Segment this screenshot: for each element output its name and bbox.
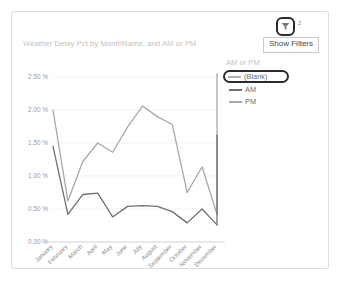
x-tick-label: March bbox=[66, 242, 84, 260]
series-line-am bbox=[53, 146, 217, 225]
filter-badge: 2 bbox=[298, 20, 301, 26]
y-axis-labels: 0.00 %0.50 %1.00 %1.50 %2.00 %2.50 % bbox=[28, 73, 48, 245]
page-title: Weather Delay Pct by MonthName, and AM o… bbox=[23, 39, 197, 48]
filter-button[interactable] bbox=[276, 17, 295, 36]
x-tick-label: April bbox=[85, 243, 99, 257]
show-filters-tooltip[interactable]: Show Filters bbox=[263, 37, 319, 53]
filter-toolbar: 2 Show Filters bbox=[223, 15, 323, 53]
chart-card: 2 Show Filters Weather Delay Pct by Mont… bbox=[11, 11, 329, 269]
x-axis-labels: JanuaryFebruaryMarchAprilMayJuneJulyAugu… bbox=[33, 242, 218, 269]
series-lines bbox=[53, 74, 217, 225]
plot-area: 0.00 %0.50 %1.00 %1.50 %2.00 %2.50 % Jan… bbox=[12, 58, 329, 269]
series-line-pm bbox=[53, 106, 217, 214]
y-tick-label: 1.00 % bbox=[28, 172, 48, 179]
x-tick-label: June bbox=[114, 242, 129, 257]
y-tick-label: 1.50 % bbox=[28, 139, 48, 146]
y-tick-label: 2.50 % bbox=[28, 73, 48, 80]
y-tick-label: 0.50 % bbox=[28, 205, 48, 212]
x-tick-label: May bbox=[100, 242, 114, 256]
line-chart-svg: 0.00 %0.50 %1.00 %1.50 %2.00 %2.50 % Jan… bbox=[12, 58, 329, 269]
y-tick-label: 2.00 % bbox=[28, 106, 48, 113]
funnel-icon bbox=[281, 22, 290, 31]
